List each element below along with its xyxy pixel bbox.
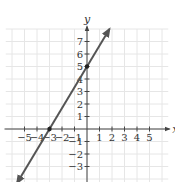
y-tick-label: −2 [68, 149, 83, 160]
x-tick-label: 3 [121, 132, 127, 143]
y-tick-label: 1 [77, 111, 83, 122]
y-tick-label: 5 [77, 61, 83, 72]
x-tick-label: 1 [96, 132, 102, 143]
x-tick-label: 2 [109, 132, 115, 143]
y-tick-label: 2 [77, 99, 83, 110]
x-tick-label: 4 [134, 132, 140, 143]
y-tick-label: 6 [77, 49, 83, 60]
y-tick-label: 3 [77, 86, 83, 97]
y-tick-label: −1 [68, 136, 83, 147]
coordinate-plane: −5−4−3−2−112345−3−2−11234567 x y [0, 0, 175, 182]
intercept-point [47, 127, 51, 131]
line-series [17, 29, 110, 182]
data-line [17, 29, 110, 182]
y-axis-label: y [83, 13, 91, 26]
x-tick-label: 5 [146, 132, 152, 143]
y-tick-label: 7 [77, 36, 83, 47]
intercept-point [85, 64, 89, 68]
x-axis-label: x [172, 123, 175, 136]
y-tick-label: −3 [68, 161, 83, 172]
